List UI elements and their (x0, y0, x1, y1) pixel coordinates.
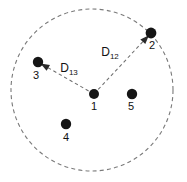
edge-label-d13-main: D (60, 61, 69, 75)
edge-label-d12: D12 (101, 45, 119, 61)
edge-label-d13: D13 (60, 61, 78, 77)
node-label-4: 4 (63, 131, 69, 143)
node-label-2: 2 (149, 39, 155, 51)
node-label-1: 1 (91, 100, 97, 112)
node-dot-4[interactable] (61, 119, 71, 129)
diagram-canvas: D12 D13 1 2 3 4 5 (0, 0, 187, 182)
node-label-5: 5 (128, 100, 134, 112)
edge-label-d12-subscript: 12 (110, 52, 119, 61)
node-distance-diagram: D12 D13 1 2 3 4 5 (0, 0, 187, 182)
node-dot-1[interactable] (89, 89, 99, 99)
node-dot-3[interactable] (33, 57, 43, 67)
node-dot-2[interactable] (146, 28, 157, 39)
edge-label-d13-subscript: 13 (69, 68, 78, 77)
node-dot-5[interactable] (127, 89, 137, 99)
edge-label-d12-main: D (101, 45, 110, 59)
edge-line-d12 (94, 33, 151, 94)
node-label-3: 3 (33, 69, 39, 81)
